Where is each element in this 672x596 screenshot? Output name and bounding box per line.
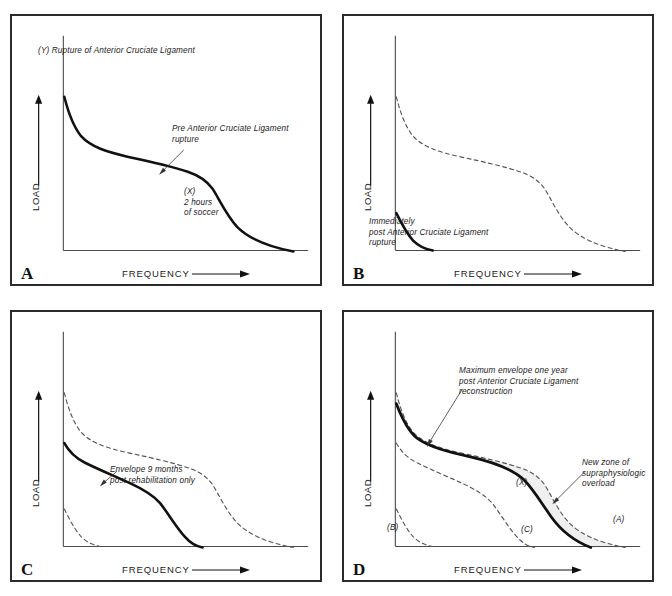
panel-a-pre-rupture-caption: Pre Anterior Cruciate Ligament rupture bbox=[172, 124, 289, 145]
panel-a-soccer-caption: (X) 2 hours of soccer bbox=[184, 187, 219, 219]
panel-d-max-envelope-caption: Maximum envelope one year post Anterior … bbox=[459, 366, 578, 398]
leader-pre-rupture bbox=[159, 150, 184, 175]
leader-supraphysiologic bbox=[552, 472, 585, 505]
y-axis-arrow bbox=[35, 95, 42, 186]
panel-d-x-label: FREQUENCY bbox=[454, 564, 522, 575]
panel-d-y-label: LOAD bbox=[362, 479, 373, 507]
curve-reference-b-dashed bbox=[396, 509, 433, 546]
panel-a-x-arrow bbox=[190, 267, 254, 281]
panel-a: LOAD FREQUENCY (Y) Rupture of Anterior C… bbox=[10, 14, 322, 286]
panel-b-y-label: LOAD bbox=[362, 183, 373, 211]
panel-a-rupture-caption: (Y) Rupture of Anterior Cruciate Ligamen… bbox=[38, 46, 195, 57]
figure-root: LOAD FREQUENCY (Y) Rupture of Anterior C… bbox=[0, 0, 672, 596]
panel-c: LOAD FREQUENCY Envelope 9 months post re… bbox=[10, 310, 322, 582]
y-axis-arrow bbox=[35, 391, 42, 482]
panel-b-x-arrow bbox=[522, 267, 586, 281]
panel-d: LOAD FREQUENCY Maximum envelope one year… bbox=[342, 310, 654, 582]
panel-b-immediate-post-rupture-caption: Immediately post Anterior Cruciate Ligam… bbox=[369, 217, 488, 249]
panel-b-letter: B bbox=[353, 265, 364, 282]
panel-c-x-arrow bbox=[190, 563, 254, 577]
panel-d-curve-tag-a: (A) bbox=[613, 515, 624, 526]
curve-reference-c-dashed bbox=[396, 443, 534, 547]
panel-d-supraphysiologic-caption: New zone of supraphysiologic overload bbox=[582, 458, 645, 490]
panel-d-curve-tag-b: (B) bbox=[387, 523, 398, 534]
curve-reference-b-dashed bbox=[64, 509, 101, 546]
panel-b: LOAD FREQUENCY Immediately post Anterior… bbox=[342, 14, 654, 286]
panel-c-plot bbox=[12, 312, 320, 580]
y-axis-arrow bbox=[367, 391, 374, 482]
panel-c-envelope-rehab-caption: Envelope 9 months post rehabilitation on… bbox=[110, 465, 195, 486]
panel-c-letter: C bbox=[21, 561, 33, 578]
curve-envelope-rehab bbox=[64, 443, 202, 547]
panel-b-x-label: FREQUENCY bbox=[454, 268, 522, 279]
panel-d-plot bbox=[344, 312, 652, 580]
curve-pre-rupture bbox=[64, 97, 293, 252]
panel-a-x-label: FREQUENCY bbox=[122, 268, 190, 279]
leader-max-envelope bbox=[427, 389, 463, 447]
panel-d-letter: D bbox=[353, 561, 365, 578]
panel-c-y-label: LOAD bbox=[30, 479, 41, 507]
y-axis-arrow bbox=[367, 95, 374, 186]
panel-d-curve-tag-x: (X) bbox=[516, 478, 527, 489]
panel-d-curve-tag-c: (C) bbox=[521, 525, 533, 536]
panel-a-letter: A bbox=[21, 265, 33, 282]
panel-c-x-label: FREQUENCY bbox=[122, 564, 190, 575]
panel-d-x-arrow bbox=[522, 563, 586, 577]
panel-a-y-label: LOAD bbox=[30, 183, 41, 211]
